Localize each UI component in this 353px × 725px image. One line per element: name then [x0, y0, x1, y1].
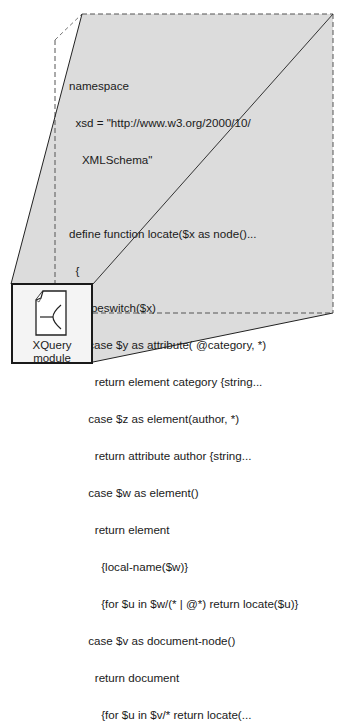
code-line	[69, 191, 298, 203]
code-line: XMLSchema"	[69, 154, 298, 166]
module-label-line2: module	[13, 352, 91, 364]
code-line: return element	[69, 524, 298, 536]
code-line: return attribute author {string...	[69, 450, 298, 462]
code-line: return document	[69, 672, 298, 684]
code-line: case $z as element(author, *)	[69, 413, 298, 425]
code-line: xsd = "http://www.w3.org/2000/10/	[69, 117, 298, 129]
code-line: {local-name($w)}	[69, 561, 298, 573]
code-line: case $y as attribute( @category, *)	[69, 339, 298, 351]
code-line: case $w as element()	[69, 487, 298, 499]
code-line: define function locate($x as node()...	[69, 228, 298, 240]
xquery-code-block: namespace xsd = "http://www.w3.org/2000/…	[69, 55, 298, 725]
code-line: {for $u in $w/(* | @*) return locate($u)…	[69, 598, 298, 610]
code-line: namespace	[69, 80, 298, 92]
xquery-module-box: XQuery module	[11, 283, 93, 364]
code-line: return element category {string...	[69, 376, 298, 388]
code-line: {	[69, 265, 298, 277]
module-label-line1: XQuery	[13, 339, 91, 351]
code-line: case $v as document-node()	[69, 635, 298, 647]
code-line: typeswitch($x)	[69, 302, 298, 314]
code-line: {for $u in $v/* return locate(...	[69, 709, 298, 721]
xquery-document-icon	[35, 290, 69, 338]
